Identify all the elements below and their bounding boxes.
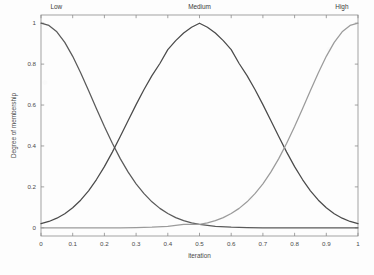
x-tick-label: 0.4 (163, 240, 172, 247)
y-tick-label: 1 (33, 19, 37, 26)
figure-canvas: 00.10.20.30.40.50.60.70.80.9100.20.40.60… (0, 0, 374, 275)
y-tick-label: 0.4 (27, 142, 36, 149)
curve-low (41, 23, 358, 228)
x-tick-label: 0.9 (322, 240, 331, 247)
mf-label-medium: Medium (188, 3, 211, 10)
x-tick-label: 0.3 (132, 240, 141, 247)
x-tick-label: 0 (39, 240, 43, 247)
y-tick-label: 0 (33, 224, 37, 231)
axes-frame (41, 15, 358, 236)
membership-function-plot: 00.10.20.30.40.50.60.70.80.9100.20.40.60… (0, 0, 374, 275)
x-tick-label: 0.2 (100, 240, 109, 247)
x-axis-title: iteration (188, 252, 211, 259)
x-tick-label: 0.8 (290, 240, 299, 247)
x-tick-label: 0.1 (68, 240, 77, 247)
y-tick-label: 0.2 (27, 183, 36, 190)
y-axis-title: Degree of membership (10, 93, 18, 158)
x-tick-label: 0.5 (195, 240, 204, 247)
axis-ticks (41, 15, 358, 236)
x-tick-label: 0.6 (227, 240, 236, 247)
y-tick-label: 0.8 (27, 60, 36, 67)
mf-label-high: High (335, 3, 349, 11)
x-tick-label: 0.7 (259, 240, 268, 247)
curve-group (41, 23, 358, 228)
x-tick-label: 1 (356, 240, 360, 247)
curve-high (41, 23, 358, 228)
mf-label-low: Low (51, 3, 63, 10)
axes-box (41, 15, 358, 236)
y-tick-label: 0.6 (27, 101, 36, 108)
curve-medium (41, 23, 358, 224)
